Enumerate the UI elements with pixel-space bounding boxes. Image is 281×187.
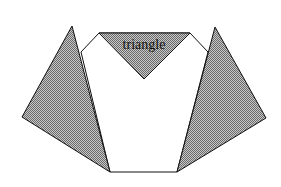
- diagram-canvas: triangle: [0, 0, 281, 187]
- triangle-label: triangle: [123, 37, 166, 52]
